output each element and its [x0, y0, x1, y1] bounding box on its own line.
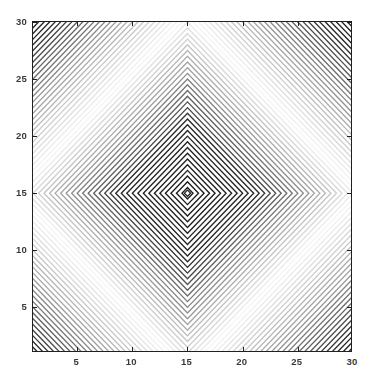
y-tick-mark — [33, 136, 37, 137]
y-tick-mark — [347, 79, 351, 80]
x-tick-label: 30 — [347, 356, 358, 367]
y-tick-mark — [347, 307, 351, 308]
plot-axes-box[interactable] — [32, 21, 352, 352]
y-tick-label: 20 — [3, 130, 27, 141]
y-tick-mark — [33, 193, 37, 194]
y-tick-mark — [347, 136, 351, 137]
y-tick-mark — [33, 79, 37, 80]
x-tick-label: 10 — [126, 356, 137, 367]
contour-plot-canvas — [33, 22, 352, 352]
y-tick-mark — [33, 307, 37, 308]
x-tick-mark — [77, 347, 78, 351]
x-tick-mark — [298, 347, 299, 351]
x-tick-mark — [243, 347, 244, 351]
y-tick-label: 25 — [3, 73, 27, 84]
contour-figure: 5101520253051015202530 — [0, 0, 375, 383]
x-tick-label: 25 — [291, 356, 302, 367]
y-tick-mark — [347, 22, 351, 23]
y-tick-label: 30 — [3, 16, 27, 27]
x-tick-mark — [77, 22, 78, 26]
x-tick-label: 15 — [181, 356, 192, 367]
x-tick-mark — [298, 22, 299, 26]
x-tick-mark — [187, 347, 188, 351]
x-tick-mark — [187, 22, 188, 26]
x-tick-label: 5 — [73, 356, 78, 367]
y-tick-mark — [347, 193, 351, 194]
x-tick-mark — [132, 22, 133, 26]
y-tick-mark — [33, 250, 37, 251]
y-tick-mark — [33, 22, 37, 23]
x-tick-mark — [243, 22, 244, 26]
x-tick-mark — [132, 347, 133, 351]
y-tick-label: 15 — [3, 187, 27, 198]
y-tick-label: 10 — [3, 244, 27, 255]
y-tick-mark — [347, 250, 351, 251]
y-tick-label: 5 — [3, 301, 27, 312]
x-tick-label: 20 — [236, 356, 247, 367]
